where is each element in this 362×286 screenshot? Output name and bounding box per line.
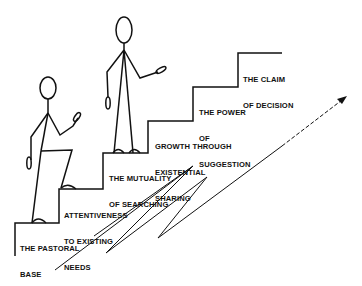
arrow-head-icon xyxy=(337,96,347,104)
head-icon xyxy=(40,77,56,99)
step-label-decision: THE CLAIM OF DECISION xyxy=(243,59,293,119)
label-line: SUGGESTION xyxy=(199,161,251,170)
label-line: OF xyxy=(199,135,251,144)
label-line: TO EXISTING xyxy=(64,238,128,247)
label-line: SHARING xyxy=(155,195,232,204)
label-line: THE CLAIM xyxy=(243,76,293,85)
label-line: OF DECISION xyxy=(243,102,293,111)
head-icon xyxy=(116,17,132,43)
label-line: NEEDS xyxy=(64,264,128,273)
